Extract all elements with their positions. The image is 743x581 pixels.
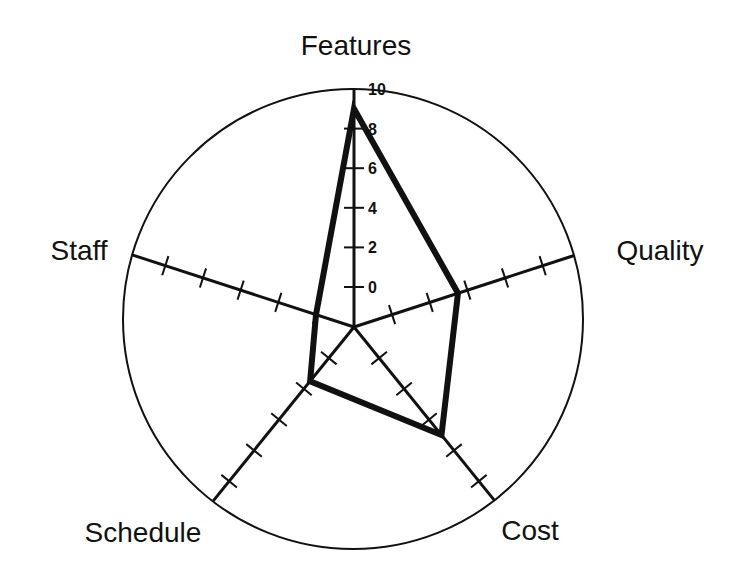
tick-label: 4 xyxy=(368,200,377,217)
series-polygon xyxy=(310,109,458,435)
tick-labels: 0246810 xyxy=(368,81,386,296)
tick-label: 10 xyxy=(368,81,386,98)
axis-line-schedule xyxy=(213,327,354,501)
radar-chart: 0246810 Features Quality Cost Schedule S… xyxy=(0,0,743,581)
tick-label: 2 xyxy=(368,239,377,256)
axis-label-staff: Staff xyxy=(50,235,107,266)
axis-label-quality: Quality xyxy=(616,235,703,266)
axes xyxy=(132,89,574,501)
axis-line-cost xyxy=(354,327,494,500)
axis-label-features: Features xyxy=(301,30,412,61)
axis-line-quality xyxy=(354,255,574,327)
tick-label: 0 xyxy=(368,279,377,296)
axis-label-cost: Cost xyxy=(501,515,559,546)
axis-label-schedule: Schedule xyxy=(85,517,202,548)
tick-label: 6 xyxy=(368,160,377,177)
